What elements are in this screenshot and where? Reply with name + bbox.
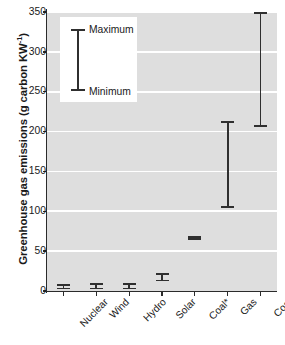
y-tick-label: 350 [29, 7, 46, 17]
range-bar [153, 273, 171, 281]
gridline [47, 11, 277, 13]
range-stem [227, 121, 229, 208]
x-tick-label: Nuclear [79, 297, 111, 329]
y-tick-label: 250 [29, 86, 46, 96]
legend-min-cap [71, 89, 85, 91]
y-axis-title-exponent: -1 [16, 37, 25, 43]
y-tick-label: 0 [40, 286, 46, 296]
x-tick-mark [63, 292, 64, 296]
y-tick-label: 50 [35, 246, 46, 256]
x-tick-mark [96, 292, 97, 296]
x-tick-label: Gas [238, 297, 258, 317]
x-tick-mark [161, 292, 162, 296]
x-tick-label: Solar [174, 297, 198, 321]
range-bar [219, 121, 237, 208]
y-tick-label: 100 [29, 206, 46, 216]
range-min-cap [123, 288, 136, 290]
gridline [47, 210, 277, 212]
y-axis-title-suffix: ) [17, 33, 29, 37]
legend-range-bar-icon [71, 29, 85, 91]
range-min-cap [156, 280, 169, 282]
range-min-cap [254, 125, 267, 127]
x-tick-label: Hydro [142, 297, 168, 323]
chart-figure: Greenhouse gas emissions (g carbon KW-1)… [0, 0, 285, 345]
x-tick-mark [227, 292, 228, 296]
x-tick-label: Wind [108, 297, 132, 321]
range-bar [87, 283, 105, 289]
range-bar [54, 284, 72, 290]
legend: Maximum Minimum [60, 17, 137, 102]
gridline [47, 250, 277, 252]
y-axis-title-text: Greenhouse gas emissions (g carbon KW [17, 43, 29, 265]
range-min-cap [188, 238, 201, 240]
legend-maximum-label: Maximum [89, 25, 134, 35]
range-min-cap [90, 288, 103, 290]
y-tick-label: 300 [29, 47, 46, 57]
x-tick-mark [260, 292, 261, 296]
legend-minimum-label: Minimum [89, 87, 131, 97]
range-bar [120, 283, 138, 289]
range-bar [186, 236, 204, 240]
x-tick-label: Coal [272, 297, 285, 319]
legend-stem [77, 29, 79, 91]
x-tick-mark [129, 292, 130, 296]
range-bar [252, 12, 270, 127]
gridline [47, 131, 277, 133]
y-tick-label: 150 [29, 166, 46, 176]
y-tick-label: 200 [29, 126, 46, 136]
range-stem [260, 12, 262, 127]
gridline [47, 171, 277, 173]
x-tick-label: Coal* [207, 297, 232, 322]
range-min-cap [221, 206, 234, 208]
range-min-cap [57, 288, 70, 290]
x-tick-mark [194, 292, 195, 296]
